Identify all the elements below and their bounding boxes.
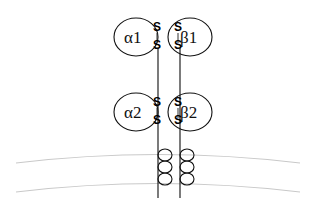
sulfur-label-alpha2-upper: S: [153, 95, 161, 109]
sulfur-label-alpha1-lower: S: [153, 38, 161, 52]
subunit-label-beta2: β2: [180, 103, 197, 122]
alpha-helix-loop-2: [158, 161, 172, 173]
beta-helix-loop-3: [180, 173, 194, 185]
sulfur-label-alpha1-upper: S: [153, 20, 161, 34]
subunit-label-alpha2: α2: [124, 103, 141, 122]
sulfur-label-beta1-upper: S: [174, 20, 182, 34]
subunit-label-alpha1: α1: [124, 28, 141, 47]
integrin-heterodimer-diagram: α1 β1 α2 β2 S S S S S S S S: [0, 0, 316, 213]
beta-helix-loop-2: [180, 161, 194, 173]
sulfur-label-alpha2-lower: S: [153, 113, 161, 127]
sulfur-label-beta2-upper: S: [174, 95, 182, 109]
sulfur-label-beta1-lower: S: [174, 38, 182, 52]
diagram-canvas: α1 β1 α2 β2 S S S S S S S S: [0, 0, 316, 213]
sulfur-label-beta2-lower: S: [174, 113, 182, 127]
subunit-label-beta1: β1: [180, 28, 197, 47]
